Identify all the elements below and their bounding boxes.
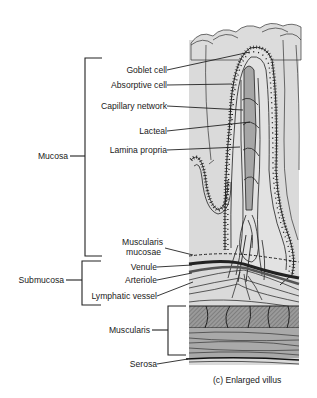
arteriole-leader — [157, 273, 192, 280]
venule-leader — [157, 265, 192, 267]
serosa-leader — [157, 359, 188, 364]
figure-caption: (c) Enlarged villus — [213, 375, 281, 385]
label-serosa: Serosa — [130, 359, 157, 369]
villus-illustration — [0, 0, 317, 398]
label-capillary-network: Capillary network — [101, 101, 167, 111]
label-muscularis-mucosae-line1: Muscularis — [122, 237, 163, 247]
label-submucosa: Submucosa — [19, 275, 64, 285]
label-lacteal: Lacteal — [139, 126, 167, 136]
label-lamina-propria: Lamina propria — [110, 145, 167, 155]
label-absorptive-cell: Absorptive cell — [111, 80, 167, 90]
label-muscularis-mucosae: Muscularis mucosae — [122, 237, 163, 257]
muscularis-bracket — [168, 306, 186, 355]
mucosae-leader — [165, 248, 193, 255]
label-arteriole: Arteriole — [125, 275, 157, 285]
label-muscularis: Muscularis — [109, 325, 150, 335]
label-goblet-cell: Goblet cell — [126, 65, 167, 75]
label-venule: Venule — [131, 262, 157, 272]
muscularis-layer — [186, 306, 299, 364]
label-mucosa: Mucosa — [38, 151, 68, 161]
villus-diagram: Goblet cell Absorptive cell Capillary ne… — [0, 0, 317, 398]
mucosa-bracket — [85, 58, 102, 256]
lymphatic-leader — [157, 282, 193, 296]
label-lymphatic-vessel: Lymphatic vessel — [91, 291, 157, 301]
label-muscularis-mucosae-line2: mucosae — [122, 247, 163, 257]
